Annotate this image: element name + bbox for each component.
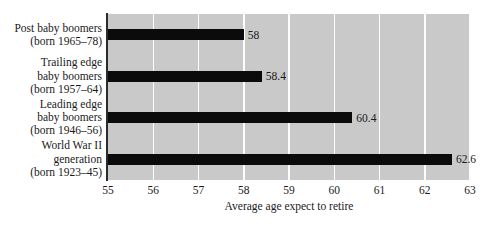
x-tick-59: 59 <box>283 183 295 197</box>
bar-value-label: 58.4 <box>266 71 286 82</box>
bars-layer: 5858.460.462.6 <box>108 14 470 180</box>
x-tick-57: 57 <box>193 183 205 197</box>
x-tick-56: 56 <box>148 183 160 197</box>
x-tick-62: 62 <box>419 183 431 197</box>
x-tick-60: 60 <box>329 183 341 197</box>
x-tick-61: 61 <box>374 183 386 197</box>
x-axis-tick-labels: 555657585960616263 <box>0 183 481 199</box>
bar-value-label: 60.4 <box>356 113 376 124</box>
y-axis-label: Trailing edge baby boomers (born 1957–64… <box>0 56 102 96</box>
y-axis-category-labels: Post baby boomers (born 1965–78)Trailing… <box>0 14 102 180</box>
x-tick-58: 58 <box>238 183 250 197</box>
x-axis-title: Average age expect to retire <box>108 200 470 212</box>
bar-value-label: 58 <box>248 30 260 41</box>
retirement-age-bar-chart: 5858.460.462.6 Post baby boomers (born 1… <box>0 0 481 225</box>
bar <box>108 71 262 82</box>
x-tick-63: 63 <box>464 183 476 197</box>
bar-value-label: 62.6 <box>456 154 476 165</box>
y-axis-label: Leading edge baby boomers (born 1946–56) <box>0 98 102 138</box>
plot-area: 5858.460.462.6 <box>108 14 470 180</box>
bar <box>108 154 452 165</box>
y-axis-label: Post baby boomers (born 1965–78) <box>0 22 102 48</box>
y-axis-label: World War II generation (born 1923–45) <box>0 139 102 179</box>
bar <box>108 29 244 40</box>
bar <box>108 112 352 123</box>
x-tick-55: 55 <box>102 183 114 197</box>
